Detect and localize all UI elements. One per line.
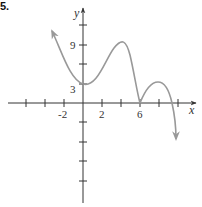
x-tick-label: -2 [58, 108, 67, 120]
function-graph: 5. -2 2 6 9 3 x y [0, 0, 202, 207]
problem-number: 5. [0, 0, 9, 12]
y-axis-label: y [73, 6, 80, 20]
x-tick-label: 6 [137, 108, 143, 120]
x-tick-label: 2 [99, 108, 105, 120]
y-tick-label: 3 [70, 83, 76, 95]
y-tick-label: 9 [70, 39, 76, 51]
x-axis-label: x [188, 103, 195, 117]
